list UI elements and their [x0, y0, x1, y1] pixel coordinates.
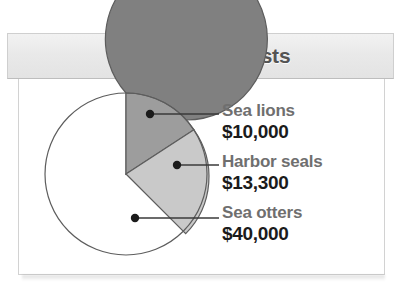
legend-value-sea-lions: $10,000 [222, 121, 295, 143]
legend-value-harbor-seals: $13,300 [222, 172, 323, 194]
panel-drop-shadow [22, 275, 385, 281]
yearly-food-costs-pie-chart-figure: Yearly Food Costs Sea lions $10,000 Harb… [0, 0, 402, 305]
legend-value-sea-otters: $40,000 [222, 223, 302, 245]
legend-item-harbor-seals: Harbor seals $13,300 [222, 152, 323, 194]
legend-label-harbor-seals: Harbor seals [222, 152, 323, 172]
chart-title: Yearly Food Costs [111, 44, 291, 68]
chart-title-bar: Yearly Food Costs [7, 33, 394, 79]
legend-item-sea-otters: Sea otters $40,000 [222, 203, 302, 245]
chart-panel [18, 79, 385, 275]
legend-label-sea-lions: Sea lions [222, 101, 295, 121]
legend-item-sea-lions: Sea lions $10,000 [222, 101, 295, 143]
legend-label-sea-otters: Sea otters [222, 203, 302, 223]
